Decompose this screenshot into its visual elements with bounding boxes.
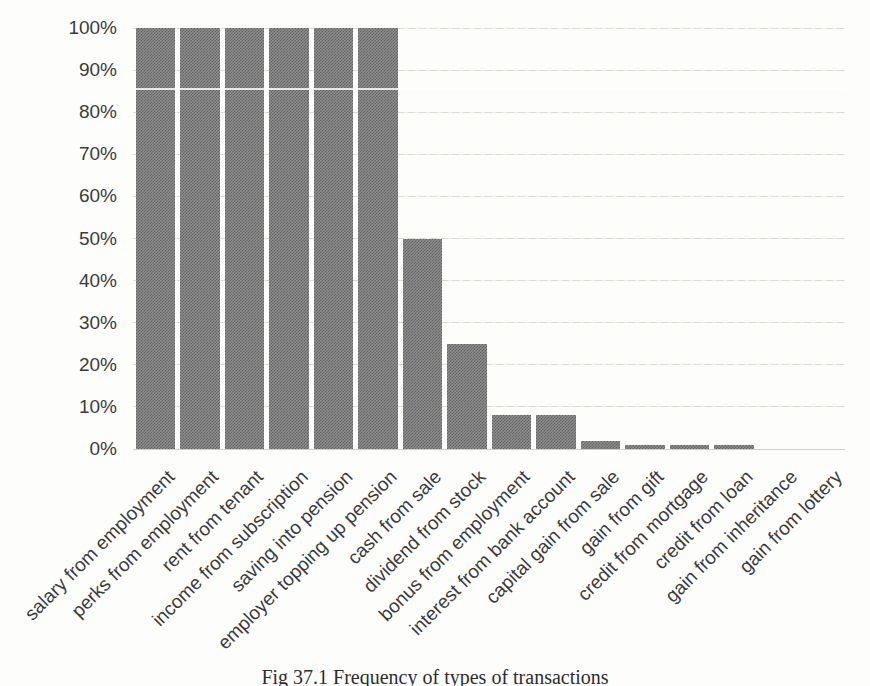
y-axis-tick-label: 60% — [0, 184, 117, 207]
bar — [447, 344, 487, 449]
bar — [492, 415, 532, 449]
scan-artifact-line — [133, 88, 845, 90]
y-axis-tick-label: 30% — [0, 311, 117, 334]
y-axis-tick-label: 70% — [0, 142, 117, 165]
bar — [180, 28, 220, 449]
y-axis-tick-label: 20% — [0, 353, 117, 376]
bar — [403, 239, 443, 450]
bar — [670, 445, 710, 449]
bar-chart: Fig 37.1 Frequency of types of transacti… — [0, 0, 870, 686]
y-axis-tick-label: 100% — [0, 16, 117, 39]
bar — [581, 441, 621, 449]
y-axis-tick-label: 80% — [0, 100, 117, 123]
y-axis-tick-label: 90% — [0, 58, 117, 81]
bar — [536, 415, 576, 449]
bar — [269, 28, 309, 449]
bar — [225, 28, 265, 449]
y-axis-tick-label: 50% — [0, 227, 117, 250]
y-axis-tick-label: 10% — [0, 395, 117, 418]
bar — [714, 445, 754, 449]
bar — [358, 28, 398, 449]
x-axis-line — [133, 449, 845, 450]
bar — [136, 28, 176, 449]
y-axis-tick-label: 40% — [0, 269, 117, 292]
y-axis-tick-label: 0% — [0, 437, 117, 460]
bar — [625, 445, 665, 449]
bar — [314, 28, 354, 449]
figure-caption: Fig 37.1 Frequency of types of transacti… — [0, 666, 870, 686]
